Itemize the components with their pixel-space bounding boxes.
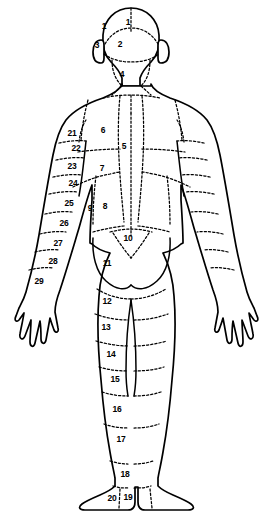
zone-label: 14 — [106, 350, 115, 359]
zone-label: 13 — [101, 323, 110, 332]
zone-label: 6 — [101, 126, 106, 135]
zone-label: 5 — [122, 142, 127, 151]
head-group — [93, 8, 169, 86]
zone-label: 4 — [120, 70, 125, 79]
zone-label: 11 — [103, 259, 112, 268]
zone-label: 9 — [88, 204, 93, 213]
zone-label: 2 — [118, 40, 123, 49]
zone-label: 29 — [34, 277, 43, 286]
zone-label: 18 — [120, 470, 129, 479]
zone-label: 7 — [100, 164, 105, 173]
zone-label: 28 — [48, 257, 57, 266]
body-region-diagram: 1 1 2 3 4 5 6 7 8 9 10 11 12 13 14 15 16… — [0, 0, 262, 518]
zone-label: 19 — [123, 493, 132, 502]
zone-label: 22 — [71, 144, 80, 153]
body-outline-group — [15, 84, 258, 510]
zone-label: 15 — [110, 375, 119, 384]
zone-label: 23 — [67, 162, 76, 171]
zone-label: 24 — [68, 179, 77, 188]
zone-label: 1 — [126, 18, 131, 27]
zone-label: 10 — [123, 234, 132, 243]
zone-label: 1 — [102, 22, 107, 31]
body-outline-svg — [0, 0, 262, 518]
zone-label: 21 — [67, 129, 76, 138]
zone-label: 20 — [107, 494, 116, 503]
zone-label: 16 — [112, 405, 121, 414]
zone-label: 17 — [116, 435, 125, 444]
zone-label: 25 — [64, 199, 73, 208]
zone-label: 27 — [53, 239, 62, 248]
zone-label: 26 — [59, 219, 68, 228]
zone-label: 12 — [102, 297, 111, 306]
zone-label: 3 — [95, 41, 100, 50]
zone-label: 8 — [103, 202, 108, 211]
